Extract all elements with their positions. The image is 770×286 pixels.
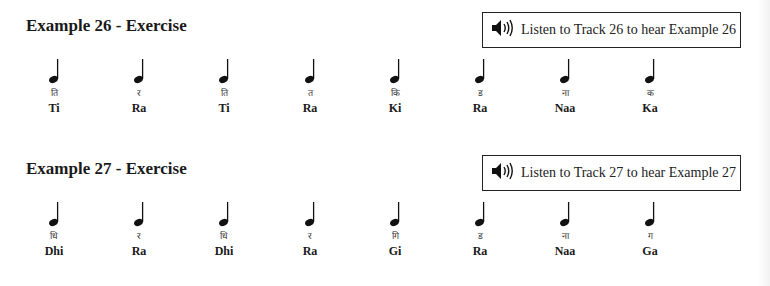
roman-bol: Gi (365, 244, 425, 259)
devanagari-bol: ग (620, 230, 680, 242)
quarter-note-icon (535, 58, 595, 84)
roman-bol: Ga (620, 244, 680, 259)
quarter-note-icon (450, 58, 510, 84)
quarter-note-icon (109, 201, 169, 227)
note-column: गGa (620, 201, 680, 259)
note-column: तिTi (194, 58, 254, 116)
note-column: डRa (450, 201, 510, 259)
note-column: धिDhi (24, 201, 84, 259)
roman-bol: Ka (620, 101, 680, 116)
devanagari-bol: कि (365, 87, 425, 99)
quarter-note-icon (109, 58, 169, 84)
note-column: किKi (365, 58, 425, 116)
roman-bol: Ra (280, 101, 340, 116)
devanagari-bol: ति (24, 87, 84, 99)
roman-bol: Ki (365, 101, 425, 116)
quarter-note-icon (280, 58, 340, 84)
note-column: तRa (280, 58, 340, 116)
listen-track-box: Listen to Track 26 to hear Example 26 (482, 12, 741, 48)
devanagari-bol: त (280, 87, 340, 99)
note-column: नाNaa (535, 201, 595, 259)
roman-bol: Dhi (194, 244, 254, 259)
note-column: रRa (109, 201, 169, 259)
quarter-note-icon (280, 201, 340, 227)
quarter-note-icon (365, 201, 425, 227)
devanagari-bol: ड (450, 87, 510, 99)
note-column: रRa (280, 201, 340, 259)
track-text: Listen to Track 27 to hear Example 27 (521, 165, 736, 181)
quarter-note-icon (24, 58, 84, 84)
roman-bol: Ra (109, 244, 169, 259)
speaker-icon (491, 161, 521, 185)
devanagari-bol: ति (194, 87, 254, 99)
devanagari-bol: गि (365, 230, 425, 242)
quarter-note-icon (194, 201, 254, 227)
note-column: नाNaa (535, 58, 595, 116)
note-column: गिGi (365, 201, 425, 259)
roman-bol: Ra (450, 101, 510, 116)
listen-track-box: Listen to Track 27 to hear Example 27 (482, 155, 741, 191)
devanagari-bol: र (109, 230, 169, 242)
quarter-note-icon (620, 58, 680, 84)
quarter-note-icon (535, 201, 595, 227)
roman-bol: Ra (450, 244, 510, 259)
speaker-icon (491, 18, 521, 42)
devanagari-bol: र (280, 230, 340, 242)
example-section: Example 26 - ExerciseListen to Track 26 … (0, 0, 770, 143)
quarter-note-icon (194, 58, 254, 84)
note-column: कKa (620, 58, 680, 116)
example-title: Example 27 - Exercise (26, 159, 187, 179)
roman-bol: Ti (24, 101, 84, 116)
devanagari-bol: धि (194, 230, 254, 242)
note-column: धिDhi (194, 201, 254, 259)
quarter-note-icon (620, 201, 680, 227)
roman-bol: Ra (109, 101, 169, 116)
note-column: तिTi (24, 58, 84, 116)
quarter-note-icon (365, 58, 425, 84)
devanagari-bol: क (620, 87, 680, 99)
quarter-note-icon (450, 201, 510, 227)
devanagari-bol: र (109, 87, 169, 99)
track-text: Listen to Track 26 to hear Example 26 (521, 22, 736, 38)
roman-bol: Naa (535, 244, 595, 259)
roman-bol: Dhi (24, 244, 84, 259)
example-section: Example 27 - ExerciseListen to Track 27 … (0, 143, 770, 286)
note-column: रRa (109, 58, 169, 116)
example-title: Example 26 - Exercise (26, 16, 187, 36)
devanagari-bol: धि (24, 230, 84, 242)
roman-bol: Ra (280, 244, 340, 259)
devanagari-bol: ड (450, 230, 510, 242)
devanagari-bol: ना (535, 87, 595, 99)
roman-bol: Ti (194, 101, 254, 116)
roman-bol: Naa (535, 101, 595, 116)
note-column: डRa (450, 58, 510, 116)
quarter-note-icon (24, 201, 84, 227)
devanagari-bol: ना (535, 230, 595, 242)
